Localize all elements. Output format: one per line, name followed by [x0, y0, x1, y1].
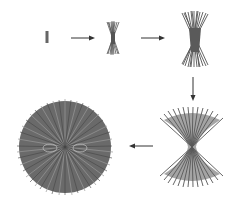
arrow-right-icon — [140, 34, 166, 42]
stage-2-small-sheaf — [104, 20, 122, 56]
stage-3-large-sheaf — [180, 10, 210, 68]
arrow-4-left — [128, 142, 154, 150]
splayed-sheaf-shape — [158, 106, 226, 188]
arrow-left-icon — [128, 142, 154, 150]
stage-1-rod — [44, 30, 50, 44]
arrow-3-down — [189, 76, 197, 102]
stage-4-splayed-sheaf — [158, 106, 226, 188]
large-sheaf-shape — [180, 10, 210, 68]
arrow-down-icon — [189, 76, 197, 102]
small-sheaf-shape — [104, 20, 122, 56]
stage-5-spherulite — [14, 96, 116, 198]
arrow-right-icon — [70, 34, 96, 42]
arrow-1-right — [70, 34, 96, 42]
arrow-2-right — [140, 34, 166, 42]
rod-shape — [44, 30, 50, 44]
spherulite-shape — [14, 96, 116, 198]
